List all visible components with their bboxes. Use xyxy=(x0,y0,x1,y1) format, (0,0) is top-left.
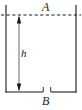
label-b: B xyxy=(42,95,49,107)
diagram-canvas xyxy=(0,0,82,110)
label-a: A xyxy=(42,1,49,13)
figure-container: A B h xyxy=(0,0,82,110)
height-arrow-head-down xyxy=(17,84,21,92)
height-arrow-head-up xyxy=(17,16,21,24)
label-h: h xyxy=(21,48,27,59)
